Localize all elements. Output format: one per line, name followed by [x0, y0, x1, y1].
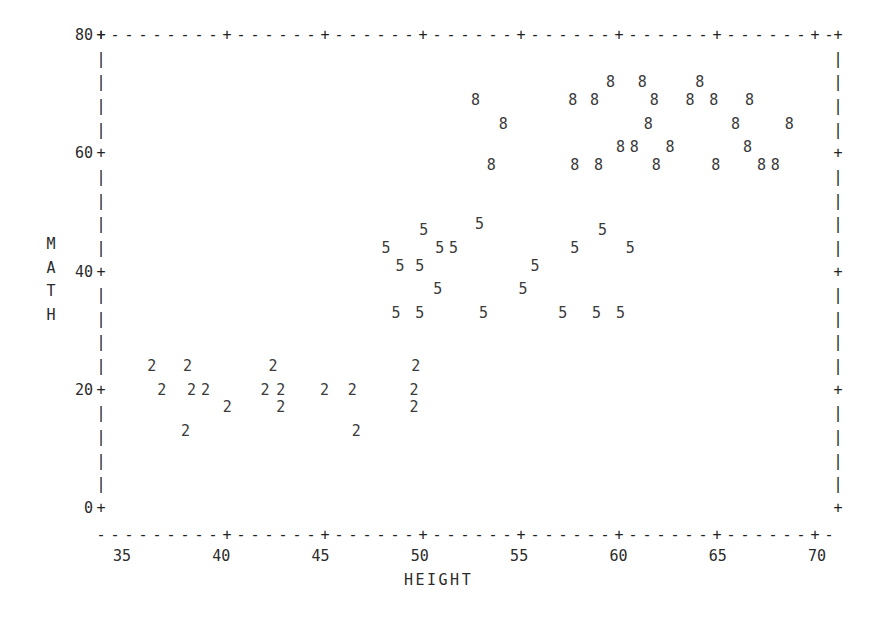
right-axis-tick: +	[831, 382, 845, 398]
top-axis-dash: -	[234, 27, 248, 43]
left-axis-bar: |	[94, 216, 108, 232]
bottom-axis-dash: -	[738, 527, 752, 543]
data-point-group-2: 2	[181, 358, 195, 374]
bottom-axis-dash: -	[150, 527, 164, 543]
top-axis-dash: -	[206, 27, 220, 43]
y-tick-label-40: 40	[53, 264, 93, 280]
top-axis-dash: -	[542, 27, 556, 43]
x-tick-label-35: 35	[102, 548, 142, 564]
top-axis-dash: -	[556, 27, 570, 43]
x-axis-title: HEIGHT	[404, 572, 473, 588]
data-point-group-2: 2	[407, 399, 421, 415]
top-axis-dash: -	[192, 27, 206, 43]
right-axis-bar: |	[831, 476, 845, 492]
bottom-axis-tick: +	[514, 527, 528, 543]
bottom-axis-dash: -	[528, 527, 542, 543]
top-axis-dash: -	[108, 27, 122, 43]
data-point-group-2: 2	[274, 399, 288, 415]
data-point-group-5: 5	[379, 240, 393, 256]
bottom-axis-dash: -	[458, 527, 472, 543]
data-point-group-5: 5	[447, 240, 461, 256]
right-axis-bar: |	[831, 287, 845, 303]
data-point-group-2: 2	[345, 382, 359, 398]
bottom-axis-dash: -	[136, 527, 150, 543]
bottom-axis-dash: -	[122, 527, 136, 543]
data-point-group-2: 2	[258, 382, 272, 398]
data-point-group-5: 5	[393, 258, 407, 274]
left-axis-tick: +	[94, 264, 108, 280]
bottom-axis-dash: -	[724, 527, 738, 543]
bottom-axis-dash: -	[262, 527, 276, 543]
bottom-axis-dash: -	[780, 527, 794, 543]
data-point-group-8: 8	[627, 139, 641, 155]
left-axis-bar: |	[94, 98, 108, 114]
top-axis-dash: -	[528, 27, 542, 43]
data-point-group-8: 8	[635, 74, 649, 90]
top-axis-dash: -	[738, 27, 752, 43]
data-point-group-8: 8	[709, 157, 723, 173]
top-axis-dash: -	[248, 27, 262, 43]
bottom-axis-dash: -	[304, 527, 318, 543]
top-axis-dash: -	[374, 27, 388, 43]
bottom-axis-tick: +	[808, 527, 822, 543]
bottom-axis-dash: -	[654, 527, 668, 543]
top-axis-dash: -	[752, 27, 766, 43]
data-point-group-5: 5	[596, 222, 610, 238]
left-axis-bar: |	[94, 193, 108, 209]
bottom-axis-tick: +	[220, 527, 234, 543]
bottom-axis-dash: -	[360, 527, 374, 543]
x-tick-label-60: 60	[598, 548, 638, 564]
data-point-group-2: 2	[409, 358, 423, 374]
right-axis-bar: |	[831, 193, 845, 209]
data-point-group-8: 8	[663, 139, 677, 155]
bottom-axis-dash: -	[598, 527, 612, 543]
right-axis-tick: +	[831, 145, 845, 161]
left-axis-tick: +	[94, 27, 108, 43]
data-point-group-5: 5	[413, 258, 427, 274]
data-point-group-8: 8	[468, 92, 482, 108]
top-axis-dash: -	[290, 27, 304, 43]
top-axis-dash: -	[346, 27, 360, 43]
top-axis-dash: -	[598, 27, 612, 43]
right-axis-bar: |	[831, 334, 845, 350]
data-point-group-8: 8	[742, 92, 756, 108]
data-point-group-8: 8	[592, 157, 606, 173]
top-axis-dash: -	[696, 27, 710, 43]
left-axis-bar: |	[94, 358, 108, 374]
right-axis-bar: |	[831, 74, 845, 90]
y-axis-title-char-t: T	[44, 283, 58, 299]
data-point-group-2: 2	[220, 399, 234, 415]
left-axis-tick: +	[94, 145, 108, 161]
data-point-group-2: 2	[155, 382, 169, 398]
left-axis-bar: |	[94, 334, 108, 350]
left-axis-tick: +	[94, 500, 108, 516]
bottom-axis-dash: -	[94, 527, 108, 543]
right-axis-bar: |	[831, 216, 845, 232]
data-point-group-2: 2	[407, 382, 421, 398]
text-scatter-plot: +--------+------+------+------+------+--…	[0, 0, 882, 618]
data-point-group-8: 8	[603, 74, 617, 90]
top-axis-dash: -	[360, 27, 374, 43]
bottom-axis-tick: +	[612, 527, 626, 543]
data-point-group-2: 2	[274, 382, 288, 398]
x-tick-label-50: 50	[400, 548, 440, 564]
right-axis-bar: |	[831, 51, 845, 67]
data-point-group-8: 8	[754, 157, 768, 173]
top-axis-dash: -	[458, 27, 472, 43]
bottom-axis-dash: -	[682, 527, 696, 543]
y-tick-label-80: 80	[53, 27, 93, 43]
right-axis-bar: |	[831, 98, 845, 114]
bottom-axis-dash: -	[388, 527, 402, 543]
right-axis-bar: |	[831, 311, 845, 327]
bottom-axis-dash: -	[640, 527, 654, 543]
data-point-group-8: 8	[693, 74, 707, 90]
left-axis-bar: |	[94, 405, 108, 421]
bottom-axis-dash: -	[402, 527, 416, 543]
data-point-group-5: 5	[528, 258, 542, 274]
left-axis-tick: +	[94, 382, 108, 398]
bottom-axis-dash: -	[206, 527, 220, 543]
top-axis-tick: +	[808, 27, 822, 43]
right-axis-bar: |	[831, 169, 845, 185]
top-axis-dash: -	[178, 27, 192, 43]
top-axis-dash: -	[724, 27, 738, 43]
